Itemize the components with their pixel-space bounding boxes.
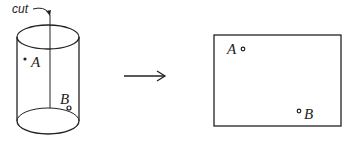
transform-arrow — [124, 71, 165, 81]
point-a-dot-rectangle — [241, 47, 245, 51]
point-b-label-cylinder: B — [60, 91, 69, 107]
cut-arrow-icon — [33, 8, 49, 13]
point-a-label-cylinder: A — [30, 54, 41, 70]
point-a-label-rectangle: A — [226, 41, 237, 57]
point-b-dot-rectangle — [297, 109, 301, 113]
cylinder-unrolling-diagram: cut A B A B — [0, 0, 354, 142]
cylinder: cut A B — [12, 2, 79, 134]
point-a-dot-cylinder — [23, 57, 26, 60]
cylinder-bottom-front-arc — [17, 121, 79, 134]
point-b-label-rectangle: B — [304, 106, 313, 122]
unrolled-rectangle: A B — [214, 35, 341, 126]
cut-label: cut — [12, 2, 29, 16]
cylinder-top-ellipse — [17, 25, 79, 49]
